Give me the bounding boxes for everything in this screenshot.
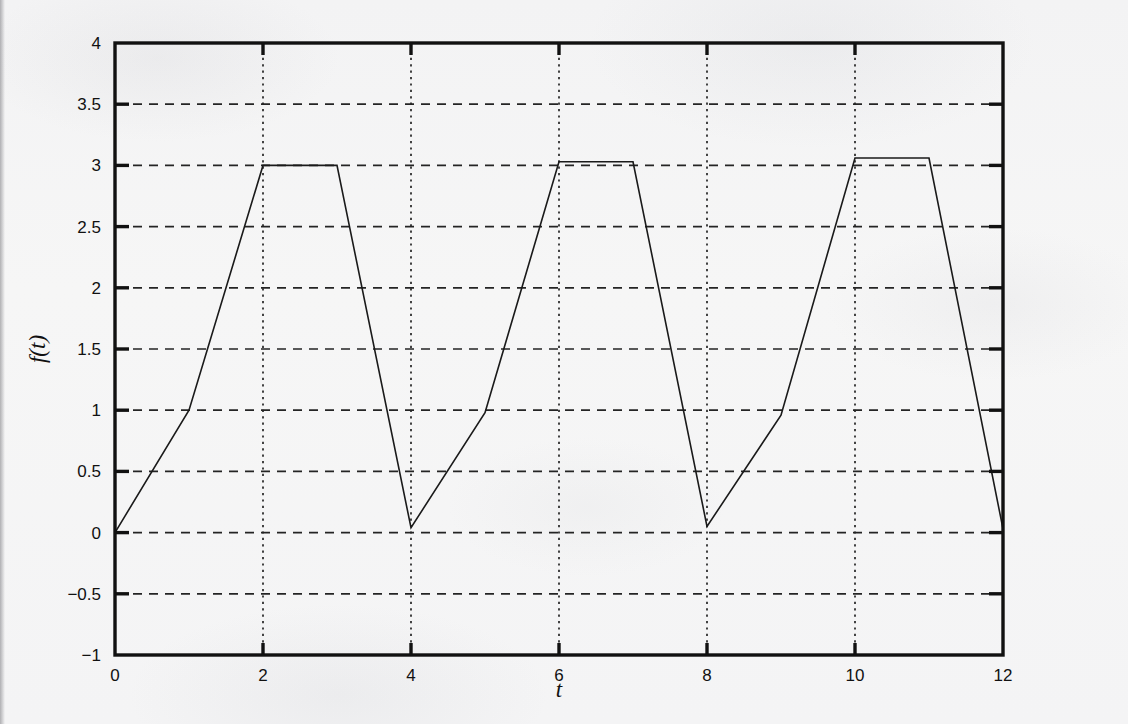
y-tick-label: −0.5 [67, 585, 101, 604]
y-axis-label: f(t) [25, 335, 50, 363]
x-axis-label: t [556, 677, 563, 702]
x-tick-label: 12 [994, 666, 1013, 685]
y-tick-label: 0 [92, 524, 101, 543]
x-gridlines [263, 45, 855, 653]
y-tick-label: −1 [82, 646, 101, 665]
x-tick-label: 4 [406, 666, 415, 685]
x-tick-label: 10 [846, 666, 865, 685]
y-tick-label: 0.5 [77, 462, 101, 481]
y-tick-label: 4 [92, 34, 101, 53]
y-tick-label: 2.5 [77, 218, 101, 237]
chart-page: −1−0.500.511.522.533.54 024681012 f(t) t [0, 0, 1128, 724]
y-tick-label: 2 [92, 279, 101, 298]
y-tick-labels: −1−0.500.511.522.533.54 [67, 34, 101, 665]
waveform-line [115, 158, 1003, 533]
y-tick-label: 3 [92, 156, 101, 175]
x-tick-label: 0 [110, 666, 119, 685]
x-tick-label: 8 [702, 666, 711, 685]
x-tick-label: 2 [258, 666, 267, 685]
y-tick-label: 1.5 [77, 340, 101, 359]
y-tick-label: 3.5 [77, 95, 101, 114]
line-chart-figure: −1−0.500.511.522.533.54 024681012 f(t) t [0, 0, 1128, 724]
y-tick-label: 1 [92, 401, 101, 420]
